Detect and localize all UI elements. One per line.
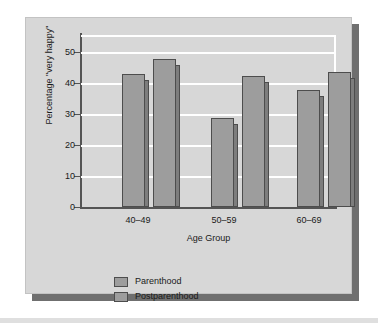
legend-item-parenthood[interactable]: Parenthood — [114, 274, 199, 289]
x-axis-tick-label-60-69: 60–69 — [279, 215, 339, 225]
bar-postparenthood-60-69[interactable] — [328, 72, 351, 207]
legend-swatch-icon — [114, 277, 128, 287]
x-axis-title: Age Group — [80, 233, 337, 243]
bar-postparenthood-40-49[interactable] — [153, 59, 176, 207]
y-axis-tick-label: 0 — [35, 203, 75, 212]
gridline-40 — [81, 83, 336, 85]
legend-item-label: Parenthood — [135, 277, 182, 286]
bar-postparenthood-50-59[interactable] — [242, 76, 265, 207]
y-axis-title: Percentage "very happy" — [44, 5, 54, 145]
chart-legend: Parenthood Postparenthood — [114, 274, 199, 304]
y-axis-tick-label: 20 — [35, 141, 75, 150]
y-axis-tick-label: 30 — [35, 110, 75, 119]
page-separator-band — [0, 318, 378, 323]
plot-top-border — [81, 35, 336, 37]
plot-area — [81, 35, 336, 207]
y-axis-tick-label: 40 — [35, 79, 75, 88]
chart-figure-panel: 50 40 30 20 10 0 Percentage "very happy"… — [25, 17, 352, 294]
x-axis-spine — [80, 207, 337, 209]
legend-swatch-icon — [114, 292, 128, 302]
legend-item-postparenthood[interactable]: Postparenthood — [114, 289, 199, 304]
gridline-50 — [81, 52, 336, 54]
bar-parenthood-60-69[interactable] — [297, 90, 320, 207]
x-axis-tick-label-40-49: 40–49 — [108, 215, 168, 225]
bar-parenthood-50-59[interactable] — [211, 118, 234, 207]
y-axis-tick-label: 10 — [35, 172, 75, 181]
bar-parenthood-40-49[interactable] — [122, 74, 145, 207]
x-axis-tick-label-50-59: 50–59 — [194, 215, 254, 225]
y-axis-tick-label: 50 — [35, 48, 75, 57]
legend-item-label: Postparenthood — [135, 292, 199, 301]
